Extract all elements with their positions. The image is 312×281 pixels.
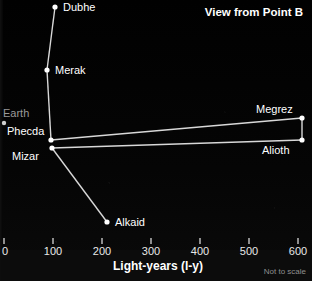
- x-tick-label-0: 0: [2, 246, 8, 257]
- star-marker-megrez: [299, 115, 304, 120]
- star-label-megrez: Megrez: [256, 104, 293, 115]
- star-label-dubhe: Dubhe: [63, 2, 95, 13]
- star-label-mizar: Mizar: [12, 151, 39, 162]
- connection-line-dubhe-merak: [47, 7, 55, 70]
- star-marker-mizar: [49, 145, 54, 150]
- star-label-earth: Earth: [3, 108, 29, 119]
- star-distance-diagram: DubheMerakPhecdaMizarAlkaidMegrezAliothE…: [0, 0, 312, 281]
- star-marker-merak: [44, 67, 49, 72]
- x-axis-title: Light-years (l-y): [113, 259, 203, 273]
- x-tick-label-600: 600: [289, 246, 307, 257]
- page-title: View from Point B: [205, 6, 303, 18]
- constellation-plot: [0, 0, 312, 281]
- x-tick-label-400: 400: [191, 246, 209, 257]
- star-label-alioth: Alioth: [262, 145, 290, 156]
- star-marker-alioth: [299, 137, 304, 142]
- x-tick-label-500: 500: [240, 246, 258, 257]
- star-label-merak: Merak: [55, 65, 86, 76]
- star-label-phecda: Phecda: [7, 126, 44, 137]
- x-tick-label-100: 100: [44, 246, 62, 257]
- connection-line-phecda-megrez: [51, 118, 302, 140]
- star-marker-phecda: [48, 137, 53, 142]
- star-marker-alkaid: [104, 219, 109, 224]
- x-tick-label-300: 300: [142, 246, 160, 257]
- scale-disclaimer: Not to scale: [264, 267, 306, 276]
- star-marker-earth: [2, 121, 6, 125]
- x-axis-tick-marks: [4, 238, 298, 244]
- x-tick-label-200: 200: [93, 246, 111, 257]
- star-marker-dubhe: [52, 4, 57, 9]
- connection-line-merak-phecda: [47, 70, 51, 140]
- connection-line-mizar-alkaid: [52, 148, 107, 222]
- star-label-alkaid: Alkaid: [115, 217, 145, 228]
